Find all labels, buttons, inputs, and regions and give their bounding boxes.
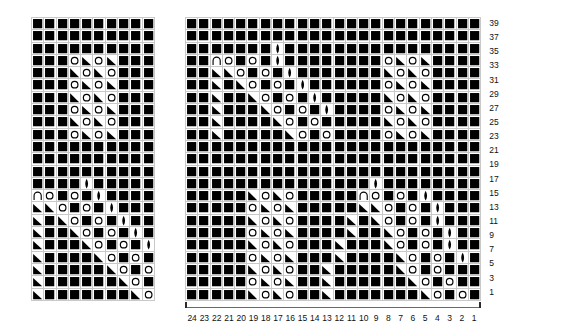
- chart-cell[interactable]: [118, 239, 129, 250]
- chart-cell[interactable]: [106, 55, 117, 66]
- chart-cell[interactable]: [432, 178, 443, 189]
- chart-cell[interactable]: [44, 79, 55, 90]
- chart-cell[interactable]: [118, 276, 129, 287]
- chart-cell[interactable]: [321, 18, 332, 29]
- chart-cell[interactable]: [321, 30, 332, 41]
- chart-cell[interactable]: [198, 79, 209, 90]
- chart-cell[interactable]: [106, 30, 117, 41]
- chart-cell[interactable]: [432, 116, 443, 127]
- chart-cell[interactable]: [383, 67, 394, 78]
- chart-cell[interactable]: [198, 30, 209, 41]
- chart-cell[interactable]: [321, 227, 332, 238]
- chart-cell[interactable]: [358, 239, 369, 250]
- chart-cell[interactable]: [223, 79, 234, 90]
- chart-cell[interactable]: [93, 18, 104, 29]
- chart-cell[interactable]: [118, 141, 129, 152]
- chart-cell[interactable]: [81, 18, 92, 29]
- chart-cell[interactable]: [383, 252, 394, 263]
- chart-cell[interactable]: [370, 252, 381, 263]
- chart-cell[interactable]: [358, 43, 369, 54]
- chart-cell[interactable]: [432, 252, 443, 263]
- chart-cell[interactable]: [358, 141, 369, 152]
- chart-cell[interactable]: [334, 104, 345, 115]
- chart-cell[interactable]: [284, 252, 295, 263]
- chart-cell[interactable]: [272, 92, 283, 103]
- chart-cell[interactable]: [346, 289, 357, 300]
- chart-cell[interactable]: [395, 116, 406, 127]
- chart-cell[interactable]: [420, 190, 431, 201]
- chart-cell[interactable]: [93, 215, 104, 226]
- chart-cell[interactable]: [93, 79, 104, 90]
- chart-cell[interactable]: [407, 215, 418, 226]
- chart-cell[interactable]: [186, 116, 197, 127]
- chart-cell[interactable]: [57, 92, 68, 103]
- chart-cell[interactable]: [44, 239, 55, 250]
- chart-cell[interactable]: [81, 153, 92, 164]
- chart-cell[interactable]: [321, 289, 332, 300]
- chart-cell[interactable]: [420, 18, 431, 29]
- chart-cell[interactable]: [469, 289, 480, 300]
- chart-cell[interactable]: [93, 239, 104, 250]
- chart-cell[interactable]: [260, 30, 271, 41]
- chart-cell[interactable]: [334, 227, 345, 238]
- chart-cell[interactable]: [444, 104, 455, 115]
- chart-cell[interactable]: [106, 18, 117, 29]
- chart-cell[interactable]: [272, 18, 283, 29]
- chart-cell[interactable]: [81, 141, 92, 152]
- chart-cell[interactable]: [272, 67, 283, 78]
- chart-cell[interactable]: [81, 92, 92, 103]
- chart-cell[interactable]: [309, 67, 320, 78]
- chart-cell[interactable]: [407, 141, 418, 152]
- chart-cell[interactable]: [57, 116, 68, 127]
- chart-cell[interactable]: [223, 104, 234, 115]
- chart-cell[interactable]: [407, 276, 418, 287]
- chart-cell[interactable]: [358, 55, 369, 66]
- chart-cell[interactable]: [297, 289, 308, 300]
- chart-cell[interactable]: [186, 55, 197, 66]
- chart-cell[interactable]: [143, 79, 154, 90]
- chart-cell[interactable]: [186, 141, 197, 152]
- chart-cell[interactable]: [235, 178, 246, 189]
- chart-cell[interactable]: [370, 202, 381, 213]
- chart-cell[interactable]: [284, 67, 295, 78]
- chart-cell[interactable]: [130, 264, 141, 275]
- chart-cell[interactable]: [247, 116, 258, 127]
- chart-cell[interactable]: [395, 239, 406, 250]
- chart-cell[interactable]: [130, 178, 141, 189]
- chart-cell[interactable]: [444, 18, 455, 29]
- chart-cell[interactable]: [444, 227, 455, 238]
- chart-cell[interactable]: [223, 239, 234, 250]
- chart-cell[interactable]: [309, 55, 320, 66]
- chart-cell[interactable]: [395, 153, 406, 164]
- chart-cell[interactable]: [44, 141, 55, 152]
- chart-cell[interactable]: [469, 202, 480, 213]
- chart-cell[interactable]: [44, 92, 55, 103]
- chart-cell[interactable]: [420, 264, 431, 275]
- chart-cell[interactable]: [346, 190, 357, 201]
- chart-cell[interactable]: [186, 166, 197, 177]
- chart-cell[interactable]: [432, 289, 443, 300]
- chart-cell[interactable]: [198, 276, 209, 287]
- chart-cell[interactable]: [407, 190, 418, 201]
- chart-cell[interactable]: [309, 18, 320, 29]
- chart-cell[interactable]: [223, 43, 234, 54]
- chart-cell[interactable]: [444, 129, 455, 140]
- chart-cell[interactable]: [69, 264, 80, 275]
- chart-cell[interactable]: [370, 227, 381, 238]
- chart-cell[interactable]: [143, 239, 154, 250]
- chart-cell[interactable]: [130, 190, 141, 201]
- chart-cell[interactable]: [358, 166, 369, 177]
- chart-cell[interactable]: [247, 79, 258, 90]
- chart-cell[interactable]: [32, 289, 43, 300]
- chart-cell[interactable]: [69, 166, 80, 177]
- chart-cell[interactable]: [57, 79, 68, 90]
- chart-cell[interactable]: [272, 153, 283, 164]
- chart-cell[interactable]: [93, 67, 104, 78]
- chart-cell[interactable]: [272, 252, 283, 263]
- chart-cell[interactable]: [370, 55, 381, 66]
- chart-cell[interactable]: [284, 264, 295, 275]
- chart-cell[interactable]: [186, 129, 197, 140]
- chart-cell[interactable]: [334, 43, 345, 54]
- chart-cell[interactable]: [93, 30, 104, 41]
- chart-cell[interactable]: [395, 190, 406, 201]
